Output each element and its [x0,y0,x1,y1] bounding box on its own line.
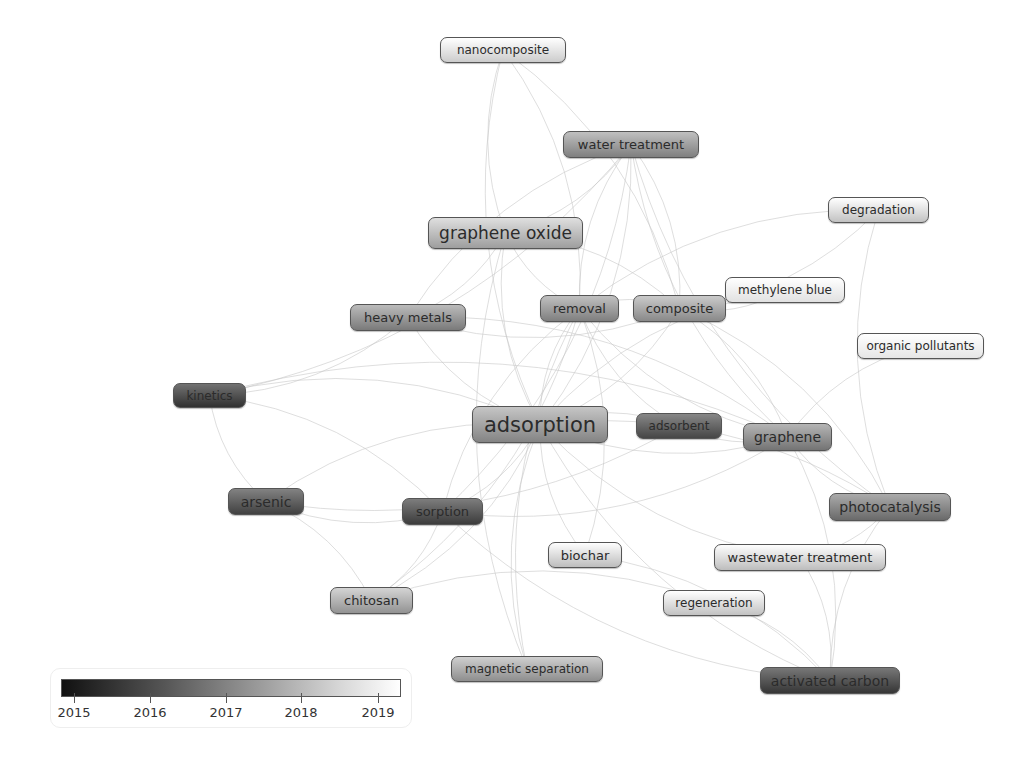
legend-tick [301,693,302,703]
node-label: nanocomposite [457,43,549,57]
edge [585,555,830,681]
node-water-treatment[interactable]: water treatment [563,131,699,158]
node-label: graphene oxide [439,223,572,243]
legend-label-2019: 2019 [361,705,394,720]
node-label: activated carbon [771,673,889,689]
node-label: graphene [754,429,821,445]
edge [800,558,831,681]
legend-label-2016: 2016 [133,705,166,720]
node-label: sorption [416,504,469,519]
node-photocatalysis[interactable]: photocatalysis [829,493,951,521]
node-arsenic[interactable]: arsenic [228,488,304,515]
node-adsorption[interactable]: adsorption [472,406,608,443]
legend-label-2017: 2017 [209,705,242,720]
legend-label-2018: 2018 [284,705,317,720]
node-label: composite [646,301,713,316]
edge [540,145,631,425]
edge [515,309,579,670]
legend-tick [378,693,379,703]
node-label: adsorption [484,413,596,437]
node-heavy-metals[interactable]: heavy metals [350,304,466,331]
edge [210,396,267,502]
node-organic-pollutants[interactable]: organic pollutants [857,333,984,359]
node-nanocomposite[interactable]: nanocomposite [440,37,566,63]
legend-tick [74,693,75,703]
node-degradation[interactable]: degradation [828,197,929,223]
node-label: methylene blue [738,283,832,297]
node-biochar[interactable]: biochar [548,542,622,568]
node-label: organic pollutants [866,339,974,353]
node-regeneration[interactable]: regeneration [663,590,765,616]
node-label: water treatment [578,137,684,152]
node-label: arsenic [241,494,292,510]
edge [443,145,632,512]
legend-tick [150,693,151,703]
node-label: regeneration [675,596,752,610]
network-edges [0,0,1033,764]
year-color-legend: 2015 2016 2017 2018 2019 [50,668,412,728]
node-label: adsorbent [649,419,710,433]
edge [579,145,631,309]
node-removal[interactable]: removal [540,295,619,322]
edge [501,233,540,425]
node-sorption[interactable]: sorption [402,498,483,525]
node-label: chitosan [344,593,399,608]
node-activated-carbon[interactable]: activated carbon [760,667,900,694]
edge [830,507,890,681]
node-magnetic-separation[interactable]: magnetic separation [451,656,603,682]
node-wastewater-treatment[interactable]: wastewater treatment [714,544,886,571]
edge [210,145,632,396]
node-label: photocatalysis [839,499,940,515]
edge [503,50,580,309]
node-chitosan[interactable]: chitosan [330,587,413,614]
legend-gradient-bar [61,679,401,697]
edge [266,502,372,601]
node-composite[interactable]: composite [633,295,726,322]
node-methylene-blue[interactable]: methylene blue [725,277,845,303]
node-label: heavy metals [364,310,452,325]
edge [540,425,585,556]
node-kinetics[interactable]: kinetics [173,383,246,408]
node-label: removal [553,301,606,316]
node-label: biochar [561,548,610,563]
node-graphene-oxide[interactable]: graphene oxide [428,217,583,249]
node-label: magnetic separation [465,662,589,676]
legend-tick [226,693,227,703]
legend-label-2015: 2015 [57,705,90,720]
node-graphene[interactable]: graphene [743,423,832,451]
node-label: wastewater treatment [728,550,873,565]
node-adsorbent[interactable]: adsorbent [636,413,722,439]
node-label: degradation [842,203,915,217]
node-label: kinetics [186,389,232,403]
